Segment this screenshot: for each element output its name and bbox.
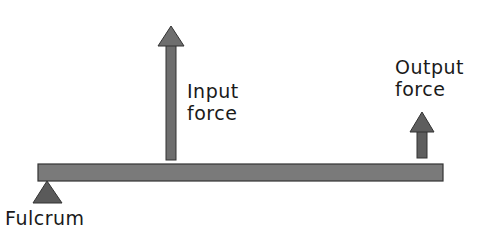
input-force-label-line1: Input <box>187 80 239 102</box>
fulcrum-triangle <box>33 181 62 203</box>
output-force-arrow-icon <box>410 112 434 158</box>
output-force-label: Output force <box>395 56 464 100</box>
input-force-label: Input force <box>187 80 239 124</box>
fulcrum-label: Fulcrum <box>5 207 85 229</box>
output-force-label-line1: Output <box>395 56 464 78</box>
lever-beam <box>38 164 443 181</box>
lever-diagram <box>0 0 496 238</box>
fulcrum-label-text: Fulcrum <box>5 207 85 229</box>
input-force-label-line2: force <box>187 102 239 124</box>
output-force-label-line2: force <box>395 78 464 100</box>
input-force-arrow-icon <box>158 26 184 160</box>
